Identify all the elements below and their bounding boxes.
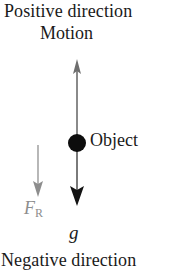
air-resistance-subscript: R bbox=[35, 206, 43, 220]
air-resistance-symbol: F bbox=[24, 198, 35, 218]
air-resistance-label: FR bbox=[24, 199, 43, 219]
object-dot bbox=[68, 134, 86, 152]
negative-direction-label: Negative direction bbox=[1, 251, 136, 269]
object-label: Object bbox=[90, 131, 138, 149]
free-body-diagram-figure: Positive direction Motion Object FR g Ne… bbox=[0, 0, 173, 279]
vector-layer bbox=[0, 0, 173, 279]
gravity-label: g bbox=[69, 223, 79, 242]
